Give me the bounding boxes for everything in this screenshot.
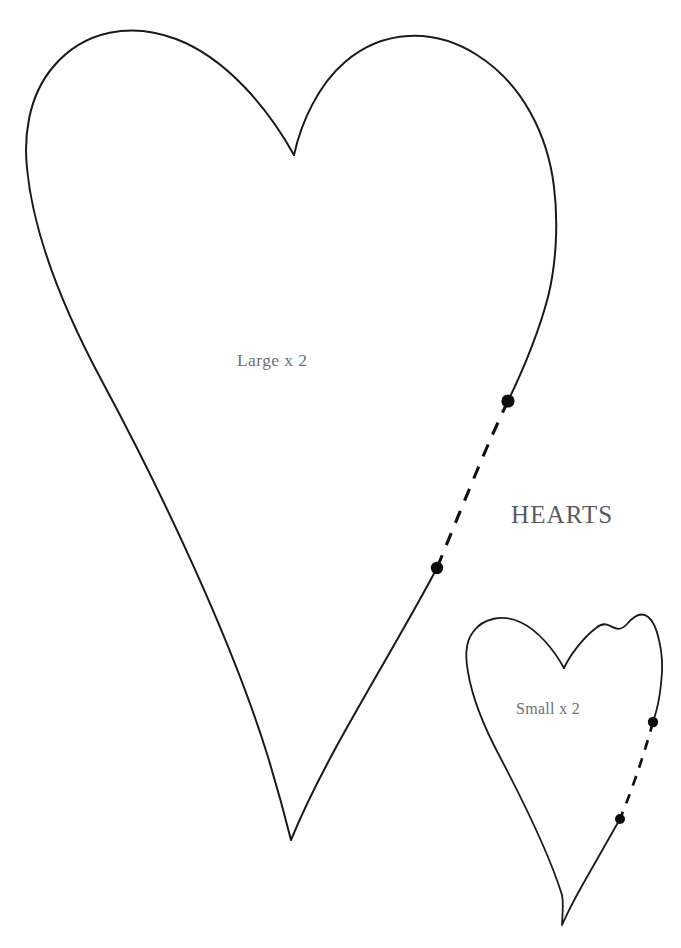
large-heart-seam-opening — [437, 401, 508, 568]
small-heart-seam-opening — [620, 722, 653, 819]
pattern-title: HEARTS — [511, 502, 613, 527]
large-heart-outline-right — [294, 36, 556, 401]
small-heart-opening-end-dot — [615, 814, 625, 824]
small-heart-piece — [466, 615, 662, 925]
pattern-drawing-canvas — [0, 0, 681, 948]
pattern-sheet: Large x 2 HEARTS Small x 2 — [0, 0, 681, 948]
large-piece-label: Large x 2 — [237, 352, 307, 370]
small-heart-outline-left — [466, 618, 620, 925]
large-heart-piece — [26, 30, 556, 840]
small-heart-opening-start-dot — [648, 717, 658, 727]
large-heart-outline-left — [26, 30, 437, 840]
large-heart-opening-end-dot — [431, 562, 443, 574]
large-heart-opening-start-dot — [501, 394, 514, 407]
small-piece-label: Small x 2 — [516, 701, 580, 717]
